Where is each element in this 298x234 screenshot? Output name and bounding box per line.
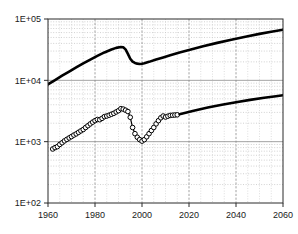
x-tick-label: 2060	[273, 210, 293, 220]
y-tick-label: 1E+02	[15, 198, 41, 208]
data-point-marker	[128, 115, 133, 120]
y-tick-label: 1E+05	[15, 14, 41, 24]
x-tick-label: 2020	[179, 210, 199, 220]
data-point-marker	[126, 109, 131, 114]
data-point-marker	[130, 125, 135, 130]
chart-container: 1E+021E+031E+041E+05 1960198020002020204…	[0, 0, 298, 234]
x-tick-label: 1960	[38, 210, 58, 220]
x-axis-ticks: 196019802000202020402060	[38, 203, 293, 220]
line-chart: 1E+021E+031E+041E+05 1960198020002020204…	[0, 0, 298, 234]
x-tick-label: 1980	[85, 210, 105, 220]
x-tick-label: 2000	[132, 210, 152, 220]
x-tick-label: 2040	[226, 210, 246, 220]
y-tick-label: 1E+03	[15, 137, 41, 147]
y-axis-ticks: 1E+021E+031E+041E+05	[15, 14, 48, 208]
y-tick-label: 1E+04	[15, 76, 41, 86]
